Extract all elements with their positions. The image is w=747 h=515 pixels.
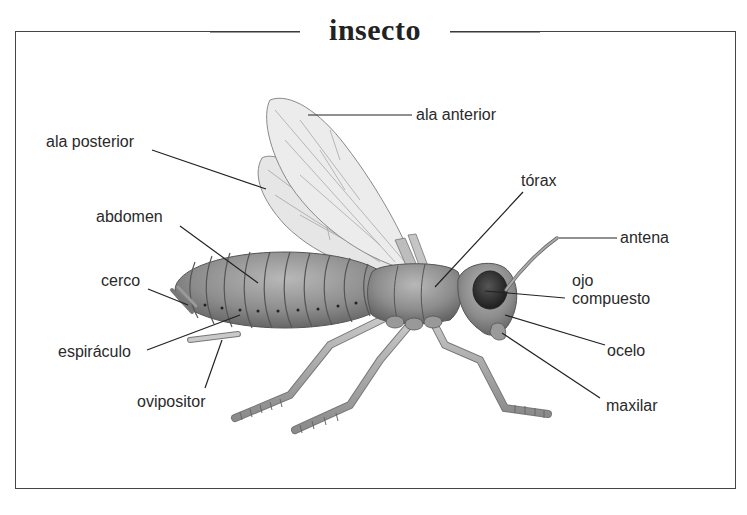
diagram-title: insecto [329,13,421,46]
head [458,263,517,340]
label-antena: antena [620,229,669,247]
label-ovipositor: ovipositor [137,393,205,411]
abdomen-body [175,252,395,328]
label-ala-anterior: ala anterior [416,106,496,124]
label-ocelo: ocelo [607,342,645,360]
label-cerco: cerco [101,272,140,290]
title-container: insecto [300,10,450,50]
label-ala-posterior: ala posterior [46,133,134,151]
label-ojo-compuesto-2: compuesto [572,290,650,308]
label-torax: tórax [521,172,557,190]
label-ojo-compuesto-1: ojo [572,272,593,290]
label-espiraculo: espiráculo [58,343,131,361]
label-maxilar: maxilar [606,397,658,415]
label-abdomen: abdomen [96,208,163,226]
insect-illustration [0,0,747,515]
